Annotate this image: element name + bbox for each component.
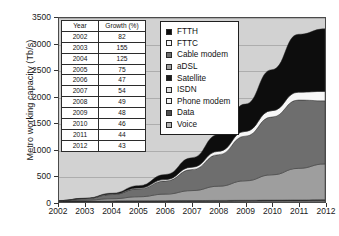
- y-tick-label: 500: [17, 171, 51, 181]
- table-body: 2002822003155200412520057520064720075420…: [62, 31, 146, 151]
- legend-label: ISDN: [177, 85, 197, 94]
- x-tick-label: 2004: [97, 206, 127, 216]
- table-row: 201046: [62, 119, 146, 130]
- x-tick-mark: [299, 203, 300, 207]
- table-cell-year: 2010: [62, 119, 99, 130]
- legend-item-data: Data: [166, 107, 230, 119]
- legend-swatch-icon: [166, 64, 172, 70]
- table-cell-growth: 75: [99, 64, 146, 75]
- x-tick-label: 2007: [177, 206, 207, 216]
- table-row: 200575: [62, 64, 146, 75]
- x-tick-label: 2002: [43, 206, 73, 216]
- x-tick-mark: [272, 203, 273, 207]
- table-header-growth: Growth (%): [99, 21, 146, 32]
- table-cell-growth: 46: [99, 119, 146, 130]
- x-tick-mark: [58, 203, 59, 207]
- x-tick-mark: [112, 203, 113, 207]
- y-tick-label: 2500: [17, 65, 51, 75]
- table-cell-year: 2009: [62, 108, 99, 119]
- table-cell-growth: 48: [99, 108, 146, 119]
- legend-swatch-icon: [166, 29, 172, 35]
- legend-swatch-icon: [166, 87, 172, 93]
- legend-label: Cable modem: [177, 50, 228, 59]
- table-header-year: Year: [62, 21, 99, 32]
- legend-label: Data: [177, 108, 194, 117]
- x-tick-mark: [138, 203, 139, 207]
- table-row: 200849: [62, 97, 146, 108]
- chart-legend: FTTHFTTCCable modemaDSLSatelliteISDNPhon…: [160, 21, 239, 135]
- legend-swatch-icon: [166, 52, 172, 58]
- x-tick-mark: [219, 203, 220, 207]
- x-tick-label: 2003: [70, 206, 100, 216]
- y-tick-label: 3500: [17, 12, 51, 22]
- legend-label: aDSL: [177, 62, 197, 71]
- table-cell-year: 2003: [62, 42, 99, 53]
- x-tick-mark: [326, 203, 327, 207]
- table-cell-growth: 54: [99, 86, 146, 97]
- growth-data-table: Year Growth (%) 200282200315520041252005…: [61, 20, 146, 152]
- table-row: 200282: [62, 31, 146, 42]
- x-tick-mark: [192, 203, 193, 207]
- y-tick-label: 2000: [17, 92, 51, 102]
- legend-item-isdn: ISDN: [166, 84, 230, 96]
- table-row: 2003155: [62, 42, 146, 53]
- x-tick-label: 2006: [150, 206, 180, 216]
- table-cell-growth: 82: [99, 31, 146, 42]
- legend-label: Voice: [177, 120, 197, 129]
- table-cell-growth: 155: [99, 42, 146, 53]
- x-tick-label: 2011: [284, 206, 314, 216]
- table-cell-year: 2007: [62, 86, 99, 97]
- table-row: 201243: [62, 140, 146, 151]
- legend-item-fttc: FTTC: [166, 38, 230, 50]
- legend-swatch-icon: [166, 40, 172, 46]
- x-tick-label: 2008: [204, 206, 234, 216]
- x-tick-mark: [165, 203, 166, 207]
- x-tick-label: 2005: [123, 206, 153, 216]
- table-cell-year: 2011: [62, 129, 99, 140]
- y-tick-label: 1500: [17, 118, 51, 128]
- table-cell-growth: 47: [99, 75, 146, 86]
- table-cell-year: 2005: [62, 64, 99, 75]
- legend-swatch-icon: [166, 75, 172, 81]
- chart-figure: Metro working capacity (Tb/s) 0500100015…: [0, 0, 339, 236]
- table-row: 200754: [62, 86, 146, 97]
- legend-item-satellite: Satellite: [166, 72, 230, 84]
- table-row: 201144: [62, 129, 146, 140]
- table-cell-growth: 125: [99, 53, 146, 64]
- legend-swatch-icon: [166, 98, 172, 104]
- table-cell-growth: 44: [99, 129, 146, 140]
- x-tick-mark: [85, 203, 86, 207]
- table-row: 2004125: [62, 53, 146, 64]
- table-cell-year: 2002: [62, 31, 99, 42]
- x-tick-mark: [246, 203, 247, 207]
- table-cell-year: 2008: [62, 97, 99, 108]
- legend-item-voice: Voice: [166, 119, 230, 131]
- y-tick-label: 1000: [17, 145, 51, 155]
- legend-label: Satellite: [177, 74, 206, 83]
- x-tick-label: 2009: [231, 206, 261, 216]
- x-tick-label: 2012: [311, 206, 339, 216]
- table-header: Year Growth (%): [62, 21, 146, 32]
- table-cell-growth: 49: [99, 97, 146, 108]
- table-row: 200948: [62, 108, 146, 119]
- table-cell-growth: 43: [99, 140, 146, 151]
- legend-item-phone-modem: Phone modem: [166, 96, 230, 108]
- legend-label: FTTC: [177, 39, 198, 48]
- table-cell-year: 2004: [62, 53, 99, 64]
- y-tick-label: 3000: [17, 39, 51, 49]
- legend-label: Phone modem: [177, 97, 230, 106]
- legend-item-adsl: aDSL: [166, 61, 230, 73]
- legend-swatch-icon: [166, 110, 172, 116]
- table-row: 200647: [62, 75, 146, 86]
- x-tick-label: 2010: [257, 206, 287, 216]
- table-header-row: Year Growth (%): [62, 21, 146, 32]
- legend-item-ftth: FTTH: [166, 26, 230, 38]
- legend-label: FTTH: [177, 27, 198, 36]
- table-cell-year: 2006: [62, 75, 99, 86]
- legend-item-cable-modem: Cable modem: [166, 49, 230, 61]
- table-cell-year: 2012: [62, 140, 99, 151]
- legend-swatch-icon: [166, 122, 172, 128]
